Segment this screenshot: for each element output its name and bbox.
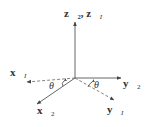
theta-left-label: θ	[49, 80, 54, 91]
theta-right-label: θ	[94, 79, 99, 90]
rotation-diagram: z⃗₂, z⃗I y⃗2 y⃗I x⃗I x⃗2 θ θ	[0, 0, 146, 127]
x2-axis	[37, 78, 75, 104]
xI-axis-label: x⃗I	[10, 66, 27, 80]
x2-axis-label: x⃗2	[37, 104, 55, 118]
z-axis-label: z⃗₂, z⃗I	[64, 7, 103, 21]
y2-axis-label: y⃗2	[123, 77, 141, 91]
yI-axis-label: y⃗I	[107, 103, 124, 117]
